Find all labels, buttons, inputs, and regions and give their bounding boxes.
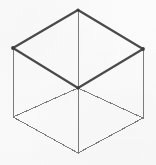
cube-vertex-upper-left — [11, 46, 15, 50]
cube-edge-upperright-to-center — [78, 49, 143, 88]
cube-vertex-top — [76, 8, 79, 11]
cube-face-right — [78, 49, 143, 153]
cube-edge-lowerleft-to-center — [13, 88, 78, 117]
wireframe-cube-drawing — [0, 0, 156, 165]
cube-edge-lowerright-to-bottom — [78, 118, 143, 153]
cube-face-left — [13, 48, 78, 153]
cube-vertex-upper-right — [141, 47, 145, 51]
cube-edge-lowerleft-to-bottom — [13, 117, 78, 153]
cube-edge-top-to-upperleft — [13, 10, 78, 48]
cube-edge-top-to-upperright — [78, 10, 143, 49]
cube-edge-lowerright-to-center — [78, 88, 143, 118]
figure-canvas — [0, 0, 156, 165]
cube-vertex-center — [76, 86, 79, 89]
cube-edge-upperleft-to-center — [13, 48, 78, 88]
